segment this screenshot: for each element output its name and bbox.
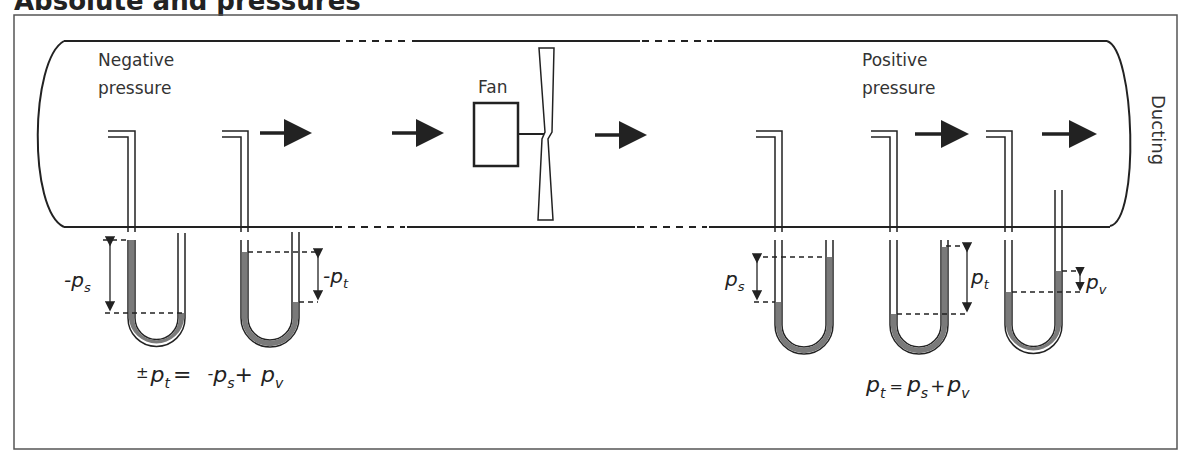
negative-pressure-label: Negative	[98, 50, 174, 70]
negative-equation: ±pt=-ps+pv	[136, 362, 284, 391]
manometer-positive-static: ps	[724, 240, 833, 354]
positive-equation: pt=ps+pv	[865, 372, 970, 401]
fan-motor-box	[474, 103, 518, 166]
negative-pressure-label-2: pressure	[98, 78, 171, 98]
probes	[108, 131, 1062, 270]
manometer-negative-static: -ps	[64, 233, 185, 347]
manometer-positive-velocity: pv	[1005, 240, 1107, 354]
duct	[38, 41, 1131, 227]
manometer-negative-total: -pt	[241, 232, 349, 347]
flow-arrows	[260, 133, 1090, 135]
neg-static-label: -ps	[64, 268, 91, 295]
duct-pressure-diagram: Negative pressure Positive pressure Duct…	[0, 0, 1191, 467]
fan-label: Fan	[478, 77, 507, 97]
pos-total-label: pt	[970, 265, 990, 292]
ducting-label: Ducting	[1148, 95, 1169, 165]
fan: Fan	[474, 48, 554, 220]
pos-static-label: ps	[724, 267, 745, 294]
positive-pressure-label-2: pressure	[862, 78, 935, 98]
pos-velocity-label: pv	[1085, 270, 1107, 297]
neg-total-label: -pt	[323, 264, 349, 291]
manometer-positive-total: pt	[890, 240, 990, 354]
positive-pressure-label: Positive	[862, 50, 928, 70]
